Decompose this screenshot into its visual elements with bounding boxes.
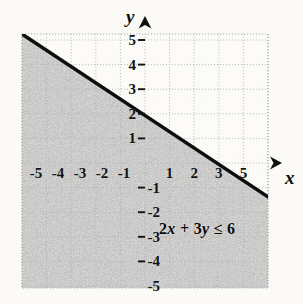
- x-tick-label-5: 5: [240, 166, 248, 181]
- x-tick-label-1: 1: [166, 166, 174, 181]
- inequality-annotation: 2x + 3y ≤ 6: [159, 220, 235, 238]
- inequality-plus-term: + 3: [176, 220, 202, 237]
- y-tick-label-5: 5: [129, 33, 137, 48]
- x-tick-label-neg-5: -5: [30, 166, 43, 181]
- y-tick-label-neg-5: -5: [148, 279, 161, 294]
- graph-screenshot: 5 4 3 2 1 -1 -2 -3 -4 -5 -5 -4 -3 -2 -1 …: [0, 0, 303, 304]
- x-tick-label-neg-4: -4: [52, 166, 65, 181]
- y-tick-label-4: 4: [129, 57, 137, 72]
- x-tick-label-neg-1: -1: [118, 166, 131, 181]
- y-tick-label-neg-1: -1: [148, 180, 161, 195]
- y-tick-label-1: 1: [129, 131, 137, 146]
- y-tick-label-3: 3: [129, 82, 137, 97]
- x-tick-label-neg-3: -3: [74, 166, 87, 181]
- x-axis-label: x: [285, 167, 295, 189]
- y-tick-label-neg-4: -4: [148, 254, 161, 269]
- y-axis-label: y: [126, 6, 134, 28]
- x-tick-label-neg-2: -2: [96, 166, 109, 181]
- y-tick-label-neg-2: -2: [148, 205, 161, 220]
- inequality-variable-x: x: [167, 220, 175, 237]
- x-tick-label-2: 2: [190, 166, 198, 181]
- y-tick-label-2: 2: [129, 106, 137, 121]
- x-tick-label-3: 3: [215, 166, 223, 181]
- inequality-relation: ≤ 6: [209, 220, 235, 237]
